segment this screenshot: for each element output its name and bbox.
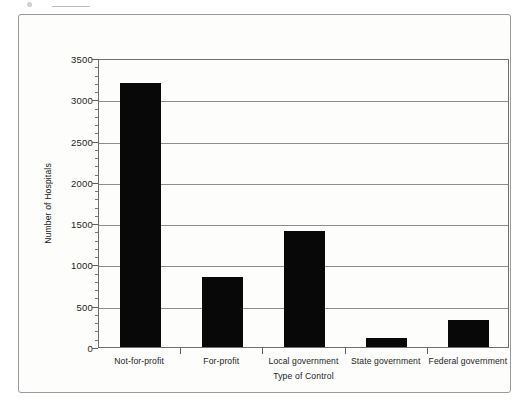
x-axis-tick-label: For-profit bbox=[203, 356, 239, 366]
scan-artifact-speck bbox=[27, 2, 32, 7]
scan-artifact-line bbox=[52, 6, 90, 7]
x-axis-tick bbox=[262, 348, 263, 354]
bar bbox=[120, 83, 161, 347]
bar bbox=[284, 231, 325, 347]
x-axis-tick bbox=[427, 348, 428, 354]
x-axis-tick-label: Federal government bbox=[429, 356, 508, 366]
y-axis-title: Number of Hospitals bbox=[41, 59, 55, 348]
bar bbox=[448, 320, 489, 347]
y-axis-tick-label: 1000 bbox=[71, 260, 93, 271]
y-axis-tick-label: 2000 bbox=[71, 177, 93, 188]
y-axis-tick-label: 3500 bbox=[71, 54, 93, 65]
figure-frame: Number of Hospitals 05001000150020002500… bbox=[18, 14, 511, 393]
x-axis-tick bbox=[345, 348, 346, 354]
y-axis-tick-labels: 0500100015002000250030003500 bbox=[55, 59, 93, 348]
x-axis-tick-label: Not-for-profit bbox=[114, 356, 164, 366]
x-axis-tick-marks bbox=[98, 348, 509, 354]
x-axis-tick-label: Local government bbox=[269, 356, 339, 366]
bar bbox=[202, 277, 243, 347]
x-axis-tick-labels: Not-for-profitFor-profitLocal government… bbox=[98, 356, 509, 370]
bar bbox=[366, 338, 407, 347]
x-axis-tick-label: State government bbox=[351, 356, 420, 366]
bars-layer bbox=[99, 60, 508, 347]
x-axis-title: Type of Control bbox=[98, 371, 509, 381]
y-axis-tick-label: 3000 bbox=[71, 95, 93, 106]
x-axis-tick bbox=[180, 348, 181, 354]
plot-area bbox=[98, 59, 509, 348]
y-axis-tick-label: 500 bbox=[77, 301, 93, 312]
y-axis-tick-label: 1500 bbox=[71, 219, 93, 230]
y-axis-tick-label: 2500 bbox=[71, 136, 93, 147]
